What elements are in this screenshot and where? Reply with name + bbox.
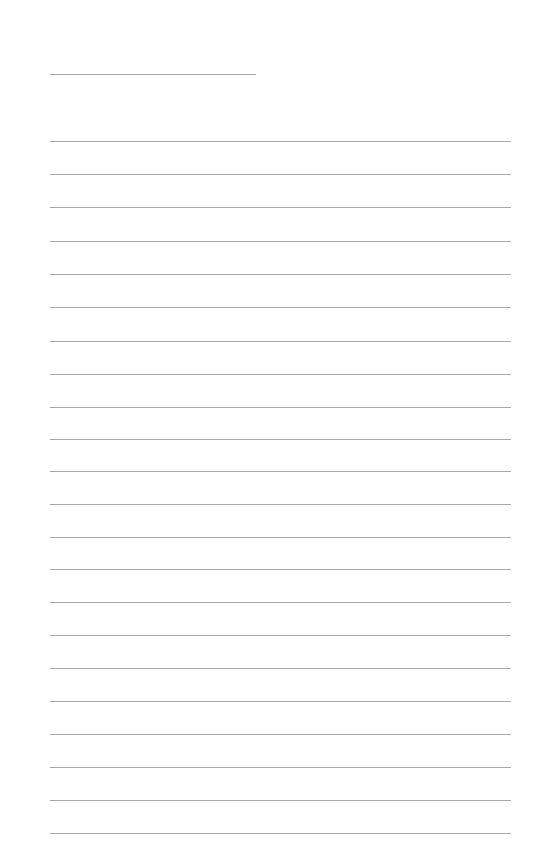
ruled-line	[50, 701, 511, 702]
ruled-line	[50, 241, 511, 242]
ruled-line	[50, 537, 511, 538]
header-title-line	[50, 74, 256, 75]
ruled-line	[50, 407, 511, 408]
ruled-line	[50, 439, 511, 440]
ruled-line	[50, 602, 511, 603]
ruled-line	[50, 471, 511, 472]
ruled-line	[50, 504, 511, 505]
ruled-line	[50, 833, 511, 834]
ruled-line	[50, 800, 511, 801]
ruled-line	[50, 274, 511, 275]
ruled-line	[50, 207, 511, 208]
ruled-line	[50, 341, 511, 342]
ruled-line	[50, 734, 511, 735]
ruled-line	[50, 307, 511, 308]
ruled-line	[50, 767, 511, 768]
ruled-line	[50, 374, 511, 375]
ruled-line	[50, 174, 511, 175]
lined-paper-page	[0, 0, 540, 864]
ruled-line	[50, 635, 511, 636]
ruled-line	[50, 141, 511, 142]
ruled-line	[50, 668, 511, 669]
ruled-line	[50, 569, 511, 570]
